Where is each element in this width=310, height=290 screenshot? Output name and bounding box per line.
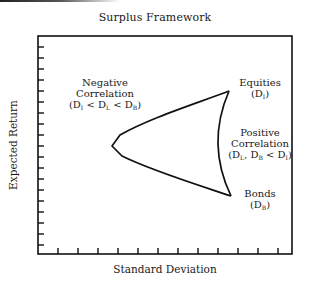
positive-formula: (DL, DB < DI) [226,149,294,160]
bonds-name: Bonds [235,188,285,199]
positive-line1: Positive [226,127,294,138]
y-axis-ticks [38,47,44,245]
negative-line1: Negative [60,77,150,88]
positive-correlation-label: Positive Correlation (DL, DB < DI) [226,127,294,160]
negative-line2: Correlation [60,88,150,99]
bonds-duration: (DB) [235,199,285,210]
negative-correlation-label: Negative Correlation (DI < DL < DB) [60,77,150,110]
y-axis-label: Expected Return [7,100,19,190]
bonds-label: Bonds (DB) [235,188,285,210]
equities-name: Equities [233,77,287,88]
negative-formula: (DI < DL < DB) [60,99,150,110]
x-axis-label: Standard Deviation [38,263,292,275]
x-axis-ticks [58,248,278,254]
equities-label: Equities (DI) [233,77,287,99]
positive-line2: Correlation [226,138,294,149]
equities-duration: (DI) [233,88,287,99]
